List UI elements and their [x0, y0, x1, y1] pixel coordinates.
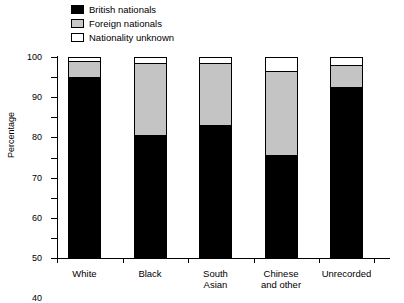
segment-nationality-unknown[interactable]: [266, 58, 297, 72]
legend-label-foreign-nationals: Foreign nationals: [89, 18, 162, 29]
segment-foreign-nationals[interactable]: [266, 72, 297, 156]
x-tick-4: [319, 258, 320, 263]
x-tick-3: [254, 258, 255, 263]
plot-area: 1009080706050403020100: [57, 57, 389, 258]
bar-chinese-and-other[interactable]: [265, 57, 298, 258]
x-axis-line: [51, 258, 390, 259]
y-tick-100: 100: [51, 57, 57, 58]
legend-item-nationality-unknown: Nationality unknown: [71, 31, 271, 44]
british-nationals-swatch: [71, 5, 84, 14]
y-tick-label-70: 70: [32, 173, 42, 183]
legend-label-nationality-unknown: Nationality unknown: [89, 32, 174, 43]
y-tick-40: 40: [51, 178, 57, 179]
bar-unrecorded[interactable]: [330, 57, 363, 258]
segment-british-nationals[interactable]: [69, 78, 100, 257]
y-axis-title: Percentage: [6, 112, 16, 158]
segment-british-nationals[interactable]: [266, 156, 297, 257]
y-tick-label-50: 50: [32, 253, 42, 263]
legend-item-foreign-nationals: Foreign nationals: [71, 17, 271, 30]
segment-foreign-nationals[interactable]: [331, 66, 362, 88]
bar-white[interactable]: [68, 57, 101, 258]
segment-british-nationals[interactable]: [331, 88, 362, 257]
bar-black[interactable]: [134, 57, 167, 258]
x-label-line: Unrecorded: [307, 268, 387, 279]
y-tick-80: 80: [51, 97, 57, 98]
x-tick-1: [123, 258, 124, 263]
x-label-unrecorded: Unrecorded: [307, 268, 387, 279]
y-tick-20: 20: [51, 218, 57, 219]
foreign-nationals-swatch: [71, 19, 84, 28]
y-tick-label-100: 100: [27, 52, 42, 62]
x-tick-0: [57, 258, 58, 263]
y-tick-10: 10: [51, 238, 57, 239]
y-tick-label-80: 80: [32, 132, 42, 142]
segment-british-nationals[interactable]: [135, 136, 166, 257]
segment-british-nationals[interactable]: [200, 126, 231, 257]
y-tick-90: 90: [51, 77, 57, 78]
x-tick-5: [374, 258, 375, 263]
y-tick-70: 70: [51, 117, 57, 118]
segment-nationality-unknown[interactable]: [331, 58, 362, 66]
y-tick-60: 60: [51, 137, 57, 138]
y-tick-50: 50: [51, 158, 57, 159]
chart-legend: British nationals Foreign nationals Nati…: [71, 3, 271, 45]
y-tick-label-60: 60: [32, 213, 42, 223]
segment-foreign-nationals[interactable]: [135, 64, 166, 136]
segment-foreign-nationals[interactable]: [200, 64, 231, 126]
y-tick-label-90: 90: [32, 92, 42, 102]
bar-south-asian[interactable]: [199, 57, 232, 258]
y-tick-30: 30: [51, 198, 57, 199]
y-tick-label-40: 40: [32, 293, 42, 303]
x-label-line: and other: [241, 279, 321, 290]
legend-label-british-nationals: British nationals: [89, 4, 156, 15]
x-tick-2: [188, 258, 189, 263]
legend-item-british-nationals: British nationals: [71, 3, 271, 16]
nationality-unknown-swatch: [71, 33, 84, 42]
segment-foreign-nationals[interactable]: [69, 62, 100, 78]
